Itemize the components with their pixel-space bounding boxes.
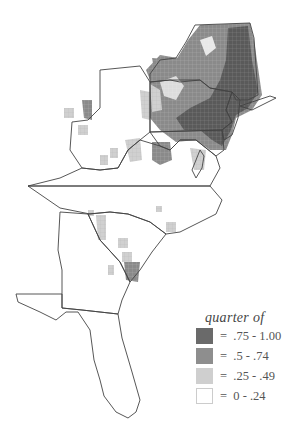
legend-swatch-dark xyxy=(196,328,213,344)
legend-item: = .75 - 1.00 xyxy=(196,326,291,346)
legend-swatch-white xyxy=(196,388,213,404)
legend-label: = .5 - .74 xyxy=(220,349,269,364)
outline-georgia xyxy=(58,212,130,314)
legend-swatch-mid xyxy=(196,348,213,364)
legend: quarter of = .75 - 1.00 = .5 - .74 = .25… xyxy=(196,310,291,406)
legend-title: quarter of xyxy=(205,310,291,326)
legend-label: = .25 - .49 xyxy=(220,369,275,384)
legend-item: = .25 - .49 xyxy=(196,366,291,386)
legend-label: = .75 - 1.00 xyxy=(220,329,281,344)
shaded-cells xyxy=(64,23,262,282)
outline-florida xyxy=(16,294,140,418)
legend-item: = .5 - .74 xyxy=(196,346,291,366)
outline-virginia xyxy=(28,140,220,186)
outline-north-carolina xyxy=(28,186,222,234)
legend-item: = 0 - .24 xyxy=(196,386,291,406)
legend-swatch-light xyxy=(196,368,213,384)
legend-label: = 0 - .24 xyxy=(220,389,266,404)
